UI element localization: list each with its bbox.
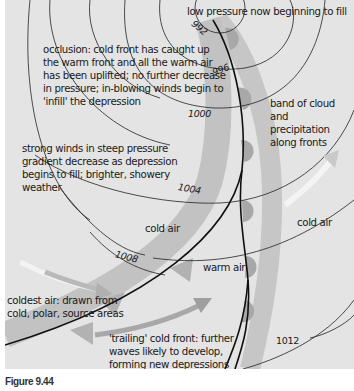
strong-winds-line4: weather (22, 182, 61, 195)
figure-caption: Figure 9.44 (5, 376, 53, 387)
occlusion-label-line2: the warm front and all the warm air (43, 57, 212, 70)
band-label-line4: along fronts (270, 137, 327, 150)
warm-air-label: warm air (203, 262, 245, 275)
weather-diagram-panel: low pressure now beginning to fill occlu… (5, 0, 354, 369)
occlusion-label-line5: 'infill' the depression (43, 96, 141, 109)
trailing-front-line2: waves likely to develop, (109, 346, 223, 359)
strong-winds-line2: gradient decrease as depression (22, 156, 177, 169)
occlusion-label-line4: in pressure; in-blowing winds begin to (43, 83, 223, 96)
isobar-label-1012: 1012 (276, 335, 299, 346)
cold-air-label-left: cold air (145, 223, 180, 236)
band-label-line3: precipitation (270, 124, 330, 137)
coldest-air-line1: coldest air: drawn from (7, 295, 117, 308)
band-label-line1: band of cloud (270, 98, 335, 111)
occlusion-label-line3: has been uplifted; no further decrease (43, 70, 226, 83)
trailing-front-line3: forming new depressions (109, 359, 229, 369)
strong-winds-line3: begins to fill; brighter, showery (22, 169, 170, 182)
isobar-label-1000: 1000 (188, 108, 211, 119)
strong-winds-line1: strong winds in steep pressure (22, 143, 168, 156)
band-label-line2: and (270, 111, 288, 124)
occlusion-label-line1: occlusion: cold front has caught up (43, 44, 209, 57)
trailing-front-line1: 'trailing' cold front: further (109, 333, 234, 346)
coldest-air-line2: cold, polar, source areas (7, 308, 123, 321)
low-pressure-label: low pressure now beginning to fill (187, 6, 347, 19)
cold-air-label-right: cold air (297, 217, 332, 230)
